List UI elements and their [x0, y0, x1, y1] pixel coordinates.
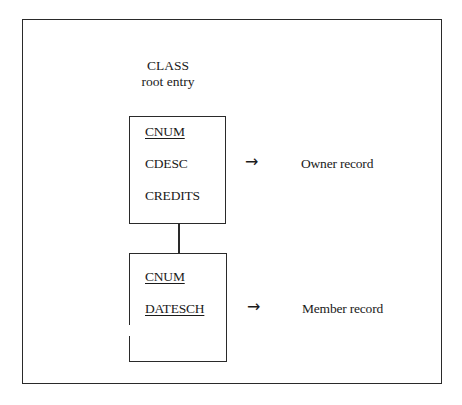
title-class: CLASS	[118, 58, 218, 74]
member-arrow-icon: →	[247, 299, 260, 315]
member-field-datesch: DATESCH	[145, 301, 204, 317]
member-segment-box: CNUM DATESCH	[129, 253, 227, 362]
owner-field-cnum: CNUM	[145, 124, 185, 140]
owner-segment-box: CNUM CDESC CREDITS	[129, 116, 226, 224]
border-gap	[128, 325, 131, 336]
member-record-label: Member record	[302, 301, 383, 317]
diagram-frame	[22, 19, 442, 384]
segment-connector-line	[178, 224, 180, 253]
owner-record-label: Owner record	[301, 156, 373, 172]
root-entry-title: CLASS root entry	[118, 58, 218, 90]
owner-field-credits: CREDITS	[145, 188, 200, 204]
title-root-entry: root entry	[118, 74, 218, 90]
owner-arrow-icon: →	[245, 154, 258, 170]
owner-field-cdesc: CDESC	[145, 156, 188, 172]
member-field-cnum: CNUM	[145, 269, 185, 285]
